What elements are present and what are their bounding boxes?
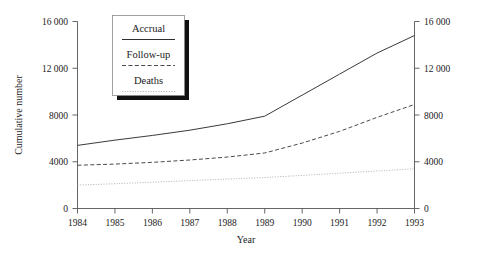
x-axis-title: Year	[237, 234, 256, 245]
xtick-label: 1984	[68, 218, 87, 228]
xtick-label: 1985	[105, 218, 124, 228]
y-axis-title: Cumulative number	[13, 74, 24, 154]
left-tick-marks	[73, 22, 78, 209]
ytick-label-12000: 12 000	[42, 64, 68, 74]
ytick-label-right-0: 0	[424, 204, 429, 214]
xtick-label: 1989	[255, 218, 274, 228]
xtick-marks	[78, 209, 415, 214]
axis-right: 0 4000 8000 12 000 16 000	[415, 17, 451, 214]
axis-left: 0 4000 8000 12 000 16 000	[42, 17, 78, 214]
figure-container: 0 4000 8000 12 000 16 000 0 4000 8000 12…	[0, 0, 482, 266]
xtick-label: 1992	[368, 218, 387, 228]
right-tick-marks	[415, 22, 420, 209]
legend-label-accrual: Accrual	[132, 23, 165, 34]
xtick-label: 1993	[405, 218, 424, 228]
legend-label-follow-up: Follow-up	[127, 49, 171, 60]
xtick-label: 1986	[143, 218, 162, 228]
ytick-label-8000: 8000	[49, 111, 68, 121]
ytick-label-right-16000: 16 000	[424, 17, 450, 27]
legend-label-deaths: Deaths	[134, 75, 163, 86]
series-line-deaths	[78, 169, 415, 185]
xtick-label: 1990	[293, 218, 312, 228]
xtick-label: 1987	[180, 218, 199, 228]
series-line-follow-up	[78, 104, 415, 165]
ytick-label-right-8000: 8000	[424, 111, 443, 121]
ytick-label-16000: 16 000	[42, 17, 68, 27]
line-chart: 0 4000 8000 12 000 16 000 0 4000 8000 12…	[0, 0, 482, 266]
axis-bottom: 1984198519861987198819891990199119921993	[68, 209, 424, 228]
ytick-label-right-12000: 12 000	[424, 64, 450, 74]
xtick-labels: 1984198519861987198819891990199119921993	[68, 218, 424, 228]
ytick-label-right-4000: 4000	[424, 157, 443, 167]
ytick-label-0: 0	[63, 204, 68, 214]
legend: Accrual Follow-up Deaths	[113, 16, 190, 101]
xtick-label: 1988	[218, 218, 237, 228]
xtick-label: 1991	[330, 218, 349, 228]
ytick-label-4000: 4000	[49, 157, 68, 167]
